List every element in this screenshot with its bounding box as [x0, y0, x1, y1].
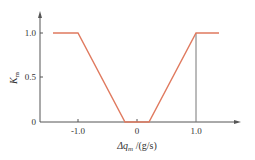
y-tick-label-0: 0 [32, 117, 37, 127]
y-label-sub: m [13, 71, 21, 77]
km-series-line [53, 33, 219, 122]
y-axis-arrow-icon [38, 11, 42, 18]
chart: 1.0 0.5 0 -1.0 0 1.0 Km Δqm /(g/s) [0, 0, 255, 160]
x-tick-label-m1: -1.0 [71, 126, 86, 136]
x-tick-label-1: 1.0 [190, 126, 202, 136]
x-axis-label: Δqm /(g/s) [116, 140, 157, 153]
y-tick-label-05: 0.5 [25, 72, 37, 82]
x-label-main: Δq [116, 140, 128, 151]
y-axis-label: Km [8, 71, 21, 85]
x-axis-arrow-icon [234, 120, 241, 124]
x-tick-label-0: 0 [135, 126, 140, 136]
x-label-unit: /(g/s) [133, 140, 157, 152]
svg-text:Km: Km [8, 71, 21, 85]
y-tick-label-1: 1.0 [25, 28, 37, 38]
